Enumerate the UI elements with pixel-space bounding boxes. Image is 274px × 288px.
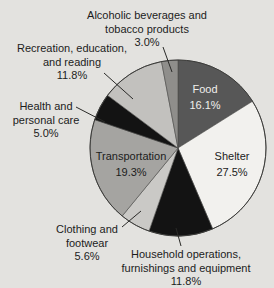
slice-label-alcoholic-tobacco-line2: tobacco products — [105, 23, 189, 35]
slice-label-health-personal-care-line3: 5.0% — [33, 127, 58, 139]
slice-label-clothing-footwear-line1: Clothing and — [56, 223, 118, 235]
slice-label-recreation-education-reading-line1: Recreation, education, — [17, 42, 127, 54]
slice-label-household-operations-line1: Household operations, — [131, 248, 241, 260]
slice-label-food-line2: 16.1% — [189, 99, 220, 111]
slice-label-health-personal-care-line2: personal care — [13, 114, 80, 126]
slice-label-alcoholic-tobacco-line1: Alcoholic beverages and — [87, 9, 207, 21]
figure-page: Food16.1%Shelter27.5%Household operation… — [0, 0, 274, 288]
slice-label-alcoholic-tobacco-line3: 3.0% — [134, 36, 159, 48]
slice-label-transportation-line1: Transportation — [96, 150, 167, 162]
slice-label-shelter-line1: Shelter — [215, 150, 250, 162]
slice-label-clothing-footwear-line2: footwear — [66, 237, 109, 249]
pie-slices — [90, 60, 266, 236]
slice-label-household-operations-line3: 11.8% — [171, 275, 202, 287]
pie-chart: Food16.1%Shelter27.5%Household operation… — [0, 0, 274, 288]
slice-label-transportation-line2: 19.3% — [115, 166, 146, 178]
slice-label-food-line1: Food — [192, 83, 217, 95]
slice-label-recreation-education-reading-line2: and reading — [43, 56, 101, 68]
slice-label-health-personal-care-line1: Health and — [19, 100, 72, 112]
slice-label-clothing-footwear-line3: 5.6% — [74, 250, 99, 262]
slice-label-household-operations-line2: furnishings and equipment — [121, 262, 250, 274]
slice-label-recreation-education-reading-line3: 11.8% — [57, 69, 88, 81]
slice-label-shelter-line2: 27.5% — [216, 166, 247, 178]
